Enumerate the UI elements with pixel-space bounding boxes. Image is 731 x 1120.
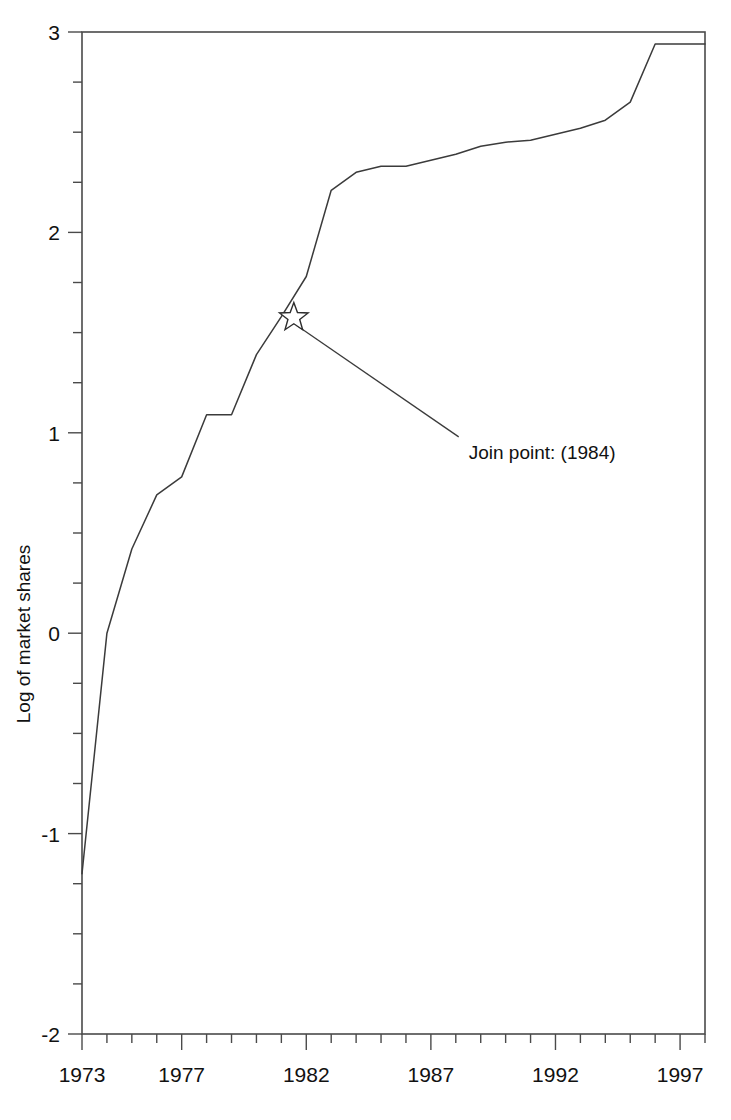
x-tick-label: 1982 [283, 1063, 330, 1086]
y-tick-label: 1 [48, 422, 60, 445]
y-axis-tick-labels: -2-10123 [41, 21, 60, 1046]
y-tick-label: 2 [48, 221, 60, 244]
y-tick-label: -1 [41, 823, 60, 846]
y-tick-label: 0 [48, 622, 60, 645]
x-tick-label: 1987 [408, 1063, 455, 1086]
line-chart-svg: -2-10123 197319771982198719921997 Log of… [0, 0, 731, 1120]
join-point-annotation: Join point: (1984) [280, 303, 616, 463]
annotation-leader-line [297, 326, 459, 437]
x-axis-tick-labels: 197319771982198719921997 [59, 1063, 704, 1086]
y-tick-label: 3 [48, 21, 60, 44]
x-tick-label: 1977 [158, 1063, 205, 1086]
x-tick-label: 1992 [532, 1063, 579, 1086]
y-axis-ticks [68, 32, 82, 1034]
plot-frame [82, 32, 705, 1034]
x-tick-label: 1997 [657, 1063, 704, 1086]
y-axis-title: Log of market shares [13, 545, 34, 723]
chart-figure: -2-10123 197319771982198719921997 Log of… [0, 0, 731, 1120]
join-point-star-icon [280, 303, 309, 330]
annotation-label: Join point: (1984) [469, 442, 616, 463]
x-tick-label: 1973 [59, 1063, 106, 1086]
y-tick-label: -2 [41, 1023, 60, 1046]
x-axis-ticks [82, 1034, 705, 1050]
